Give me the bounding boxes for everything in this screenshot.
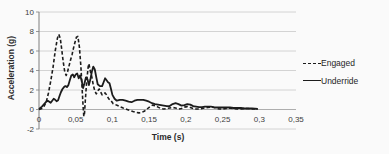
y-axis-title: Acceleration (g) (6, 13, 18, 123)
dashed-line-icon (303, 63, 321, 64)
x-tick-label: 0 (37, 115, 42, 124)
y-tick-label: 10 (25, 8, 34, 17)
x-tick-label: 0,35 (288, 115, 304, 124)
legend-item-underride: Underride (303, 77, 358, 86)
x-tick-label: 0,2 (180, 115, 192, 124)
legend-item-engaged: Engaged (303, 59, 358, 68)
x-tick-label: 0,15 (141, 115, 157, 124)
legend-label: Engaged (321, 59, 355, 68)
y-tick-label: 0 (30, 105, 35, 114)
x-tick-label: 0,3 (254, 115, 266, 124)
y-tick-label: 8 (30, 27, 35, 36)
x-tick-label: 0,25 (215, 115, 231, 124)
y-tick-label: 6 (30, 47, 35, 56)
legend-label: Underride (321, 77, 358, 86)
x-tick-label: 0,05 (68, 115, 84, 124)
y-tick-label: -2 (27, 125, 35, 134)
acceleration-time-chart: -2024681000,050,10,150,20,250,30,35 Acce… (0, 0, 389, 154)
y-tick-label: 4 (30, 66, 35, 75)
series-line-underride (39, 67, 258, 109)
x-axis-title: Time (s) (39, 132, 297, 142)
solid-line-icon (303, 80, 321, 81)
x-tick-label: 0,1 (107, 115, 119, 124)
y-tick-label: 2 (30, 86, 35, 95)
chart-legend: Engaged Underride (303, 59, 358, 85)
